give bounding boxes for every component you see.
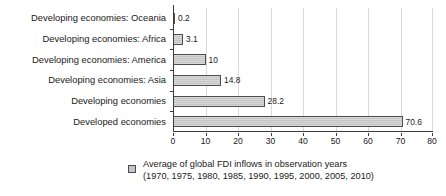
x-axis-ticks: 0 10 20 30 40 50 60 70 80: [173, 133, 433, 147]
x-tick-label-6: 60: [363, 136, 373, 146]
bar-4: [173, 96, 265, 107]
bar-value-5: 70.6: [406, 117, 422, 127]
y-axis-label-2: Developing economies: America: [0, 49, 170, 70]
x-tick-label-3: 30: [266, 136, 276, 146]
bar-3: [173, 75, 221, 86]
legend-text-line-1: Average of global FDI inflows in observa…: [143, 158, 374, 170]
x-tick-label-8: 80: [427, 136, 437, 146]
y-axis-label-3: Developing economies: Asia: [0, 70, 170, 91]
legend-swatch-icon: [128, 165, 136, 173]
y-axis-label-1: Developing economies: Africa: [0, 29, 170, 50]
bar-value-0: 0.2: [178, 13, 190, 23]
bar-value-1: 3.1: [186, 34, 198, 44]
bar-2: [173, 54, 206, 65]
bar-row: 0.2: [173, 8, 433, 29]
bar-chart: Developing economies: Oceania Developing…: [0, 0, 446, 196]
plot-area: 0.2 3.1 10 14.8 28.2 70.6: [173, 8, 433, 132]
x-tick-label-7: 70: [396, 136, 406, 146]
bar-5: [173, 116, 403, 127]
y-axis-line: [173, 5, 174, 132]
legend-text: Average of global FDI inflows in observa…: [143, 158, 374, 182]
bar-series: 0.2 3.1 10 14.8 28.2 70.6: [173, 8, 433, 132]
y-axis-label-4: Developing economies: [0, 91, 170, 112]
x-tick-label-1: 10: [201, 136, 211, 146]
x-tick-label-5: 50: [331, 136, 341, 146]
legend-text-line-2: (1970, 1975, 1980, 1985, 1990, 1995, 200…: [143, 170, 374, 182]
x-tick-label-0: 0: [171, 136, 176, 146]
bar-1: [173, 34, 183, 45]
bar-value-2: 10: [209, 55, 218, 65]
y-axis-label-0: Developing economies: Oceania: [0, 8, 170, 29]
bar-row: 3.1: [173, 29, 433, 50]
y-axis-category-labels: Developing economies: Oceania Developing…: [0, 8, 170, 132]
x-tick-label-4: 40: [298, 136, 308, 146]
y-axis-label-5: Developed economies: [0, 111, 170, 132]
bar-row: 70.6: [173, 111, 433, 132]
bar-row: 10: [173, 49, 433, 70]
bar-value-4: 28.2: [268, 96, 284, 106]
legend: Average of global FDI inflows in observa…: [128, 158, 374, 182]
x-tick-label-2: 20: [233, 136, 243, 146]
bar-value-3: 14.8: [224, 75, 240, 85]
bar-row: 28.2: [173, 91, 433, 112]
x-axis-line: [173, 131, 433, 132]
bar-row: 14.8: [173, 70, 433, 91]
